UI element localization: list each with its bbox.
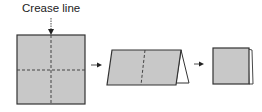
arrow-icon: [91, 63, 102, 68]
label-pointer-arrow: [48, 18, 54, 35]
unfolded-square: [17, 35, 85, 104]
arrow-icon: [194, 62, 204, 67]
folded-tent: [107, 50, 189, 85]
folding-diagram: [0, 0, 262, 112]
folded-square: [213, 48, 253, 84]
